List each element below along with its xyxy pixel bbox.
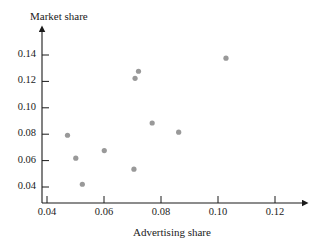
y-tick-label: 0.14	[2, 48, 36, 59]
y-tick-label: 0.06	[2, 154, 36, 165]
data-point	[223, 56, 228, 61]
x-tick-label: 0.12	[255, 206, 295, 217]
data-point	[132, 76, 137, 81]
x-tick-label: 0.06	[84, 206, 124, 217]
data-point-group	[65, 56, 229, 187]
data-point	[176, 130, 181, 135]
data-point	[65, 133, 70, 138]
data-point	[131, 167, 136, 172]
data-point	[150, 120, 155, 125]
y-tick-label: 0.12	[2, 74, 36, 85]
x-tick-label: 0.08	[141, 206, 181, 217]
data-point	[80, 182, 85, 187]
x-tick-label: 0.10	[198, 206, 238, 217]
data-point	[73, 156, 78, 161]
scatter-plot-figure: Market share Advertising share 0.040.060…	[0, 0, 316, 244]
data-point	[136, 69, 141, 74]
x-tick-label: 0.04	[27, 206, 67, 217]
data-point	[102, 148, 107, 153]
tick-marks	[42, 55, 275, 203]
y-tick-label: 0.04	[2, 180, 36, 191]
y-tick-label: 0.08	[2, 127, 36, 138]
y-tick-label: 0.10	[2, 101, 36, 112]
